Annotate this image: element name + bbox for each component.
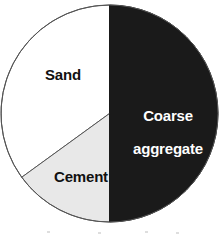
pie-label-coarse-aggregate-line1: Coarse xyxy=(124,108,212,124)
pie-label-coarse-aggregate-line2: aggregate xyxy=(124,141,212,157)
scan-speck xyxy=(145,231,148,233)
scan-speck xyxy=(98,232,101,234)
pie-label-sand: Sand xyxy=(28,67,98,83)
pie-label-coarse-aggregate: Coarse aggregate xyxy=(124,92,212,173)
pie-chart: Sand Cement Coarse aggregate xyxy=(0,0,222,235)
scan-artifacts xyxy=(0,226,222,235)
scan-speck xyxy=(47,231,50,233)
scan-speck xyxy=(176,232,179,234)
pie-label-cement: Cement xyxy=(42,169,120,185)
